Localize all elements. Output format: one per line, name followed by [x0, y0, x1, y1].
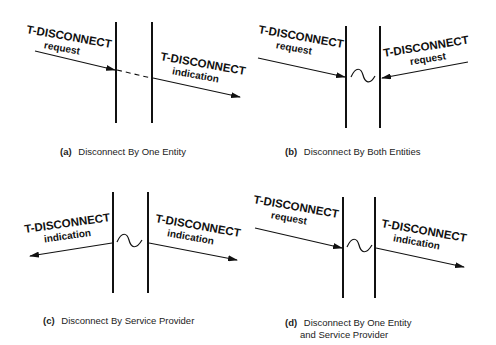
left-request-arrow [255, 228, 342, 248]
panel-c: T-DISCONNECT indication T-DISCONNECT ind… [24, 192, 242, 326]
panel-a: T-DISCONNECT request T-DISCONNECT indica… [24, 22, 247, 157]
caption-text: Disconnect By One Entity [78, 146, 186, 157]
caption-tag: (d) [285, 317, 297, 328]
panel-caption: (c) Disconnect By Service Provider [43, 315, 194, 326]
provider-tilde-icon [117, 234, 142, 247]
caption-text: Disconnect By One Entity [304, 317, 412, 328]
caption-text: Disconnect By Both Entities [304, 146, 421, 157]
panel-caption-line2: and Service Provider [300, 329, 388, 340]
caption-tag: (b) [285, 146, 297, 157]
panel-d: T-DISCONNECT request T-DISCONNECT indica… [251, 193, 468, 340]
caption-tag: (a) [60, 146, 72, 157]
panel-caption: (a) Disconnect By One Entity [60, 146, 186, 157]
caption-tag: (c) [43, 315, 55, 326]
provider-tilde-icon [347, 239, 372, 252]
provider-tilde-icon [351, 69, 375, 82]
panel-caption: (b) Disconnect By Both Entities [285, 146, 421, 157]
caption-text: Disconnect By Service Provider [61, 315, 194, 326]
left-request-arrow [258, 58, 345, 77]
panel-b: T-DISCONNECT request T-DISCONNECT reques… [256, 23, 472, 157]
left-indication-arrow [30, 243, 112, 256]
panel-caption: (d) Disconnect By One Entity [285, 317, 412, 328]
right-indication-arrow [149, 243, 237, 260]
disconnect-diagram: T-DISCONNECT request T-DISCONNECT indica… [0, 0, 496, 345]
right-indication-arrow [376, 248, 464, 267]
indication-arrow [153, 78, 240, 97]
provider-pass-through-dashed [117, 70, 151, 78]
